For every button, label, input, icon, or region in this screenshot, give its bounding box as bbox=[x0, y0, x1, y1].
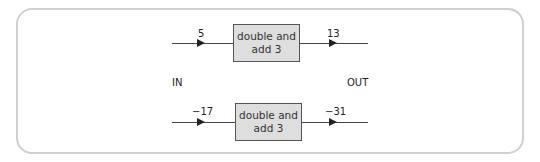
bottom-input-value: −17 bbox=[192, 106, 213, 117]
top-input-value: 5 bbox=[198, 28, 204, 39]
in-label: IN bbox=[172, 77, 182, 88]
top-function-rule: double and add 3 bbox=[234, 30, 299, 56]
out-label: OUT bbox=[347, 77, 368, 88]
top-output-value: 13 bbox=[327, 28, 340, 39]
top-function-box: double and add 3 bbox=[233, 24, 300, 62]
top-input-arrow-icon bbox=[197, 39, 205, 47]
bottom-function-rule: double and add 3 bbox=[236, 109, 301, 135]
bottom-output-value: −31 bbox=[325, 106, 346, 117]
bottom-output-arrow-icon bbox=[329, 118, 337, 126]
top-output-arrow-icon bbox=[329, 39, 337, 47]
bottom-function-box: double and add 3 bbox=[235, 103, 302, 141]
bottom-input-arrow-icon bbox=[197, 118, 205, 126]
